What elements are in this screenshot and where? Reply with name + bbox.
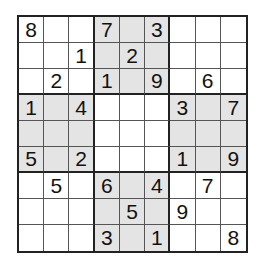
sudoku-cell-r1-c5[interactable] xyxy=(145,43,170,69)
sudoku-cell-r0-c3[interactable]: 7 xyxy=(95,17,120,43)
sudoku-cell-r7-c6[interactable]: 9 xyxy=(170,199,195,225)
sudoku-cell-r5-c8[interactable]: 9 xyxy=(221,147,246,173)
sudoku-cell-r4-c5[interactable] xyxy=(145,121,170,147)
sudoku-cell-r2-c3[interactable]: 1 xyxy=(95,69,120,95)
sudoku-cell-r3-c4[interactable] xyxy=(120,95,145,121)
sudoku-cell-r2-c4[interactable] xyxy=(120,69,145,95)
sudoku-cell-r3-c7[interactable] xyxy=(196,95,221,121)
sudoku-cell-r1-c1[interactable] xyxy=(44,43,69,69)
sudoku-cell-r8-c8[interactable]: 8 xyxy=(221,225,246,251)
sudoku-cell-r2-c5[interactable]: 9 xyxy=(145,69,170,95)
sudoku-cell-r6-c6[interactable] xyxy=(170,173,195,199)
sudoku-cell-r2-c7[interactable]: 6 xyxy=(196,69,221,95)
sudoku-cell-r4-c8[interactable] xyxy=(221,121,246,147)
sudoku-cell-r7-c3[interactable] xyxy=(95,199,120,225)
sudoku-cell-r8-c0[interactable] xyxy=(19,225,44,251)
sudoku-cell-r1-c0[interactable] xyxy=(19,43,44,69)
sudoku-cell-r6-c5[interactable]: 4 xyxy=(145,173,170,199)
sudoku-cell-r2-c0[interactable] xyxy=(19,69,44,95)
sudoku-cell-r8-c3[interactable]: 3 xyxy=(95,225,120,251)
sudoku-cell-r3-c8[interactable]: 7 xyxy=(221,95,246,121)
sudoku-cell-r1-c2[interactable]: 1 xyxy=(69,43,94,69)
sudoku-cell-r6-c1[interactable]: 5 xyxy=(44,173,69,199)
sudoku-cell-r1-c7[interactable] xyxy=(196,43,221,69)
sudoku-cell-r2-c6[interactable] xyxy=(170,69,195,95)
sudoku-cell-r8-c7[interactable] xyxy=(196,225,221,251)
sudoku-cell-r8-c5[interactable]: 1 xyxy=(145,225,170,251)
sudoku-grid: 87312219614375219564759318 xyxy=(17,15,248,253)
sudoku-cell-r7-c1[interactable] xyxy=(44,199,69,225)
sudoku-cell-r6-c0[interactable] xyxy=(19,173,44,199)
sudoku-cell-r2-c2[interactable] xyxy=(69,69,94,95)
sudoku-cell-r8-c6[interactable] xyxy=(170,225,195,251)
sudoku-cell-r5-c4[interactable] xyxy=(120,147,145,173)
sudoku-cell-r0-c2[interactable] xyxy=(69,17,94,43)
sudoku-cell-r4-c6[interactable] xyxy=(170,121,195,147)
sudoku-cell-r4-c3[interactable] xyxy=(95,121,120,147)
sudoku-cell-r3-c6[interactable]: 3 xyxy=(170,95,195,121)
sudoku-cell-r4-c4[interactable] xyxy=(120,121,145,147)
sudoku-cell-r0-c5[interactable]: 3 xyxy=(145,17,170,43)
sudoku-cell-r0-c6[interactable] xyxy=(170,17,195,43)
sudoku-cell-r0-c8[interactable] xyxy=(221,17,246,43)
sudoku-cell-r3-c0[interactable]: 1 xyxy=(19,95,44,121)
sudoku-cell-r4-c1[interactable] xyxy=(44,121,69,147)
sudoku-cell-r0-c7[interactable] xyxy=(196,17,221,43)
sudoku-cell-r3-c3[interactable] xyxy=(95,95,120,121)
sudoku-cell-r6-c8[interactable] xyxy=(221,173,246,199)
sudoku-cell-r5-c1[interactable] xyxy=(44,147,69,173)
sudoku-cell-r5-c3[interactable] xyxy=(95,147,120,173)
sudoku-cell-r7-c2[interactable] xyxy=(69,199,94,225)
sudoku-cell-r1-c3[interactable] xyxy=(95,43,120,69)
sudoku-cell-r6-c3[interactable]: 6 xyxy=(95,173,120,199)
sudoku-cell-r8-c2[interactable] xyxy=(69,225,94,251)
sudoku-cell-r5-c6[interactable]: 1 xyxy=(170,147,195,173)
sudoku-cell-r1-c4[interactable]: 2 xyxy=(120,43,145,69)
sudoku-cell-r8-c1[interactable] xyxy=(44,225,69,251)
sudoku-cell-r5-c7[interactable] xyxy=(196,147,221,173)
sudoku-cell-r4-c0[interactable] xyxy=(19,121,44,147)
sudoku-cell-r4-c7[interactable] xyxy=(196,121,221,147)
sudoku-cell-r0-c1[interactable] xyxy=(44,17,69,43)
sudoku-cell-r7-c4[interactable]: 5 xyxy=(120,199,145,225)
sudoku-cell-r6-c7[interactable]: 7 xyxy=(196,173,221,199)
sudoku-cell-r6-c4[interactable] xyxy=(120,173,145,199)
sudoku-cell-r0-c4[interactable] xyxy=(120,17,145,43)
sudoku-cell-r0-c0[interactable]: 8 xyxy=(19,17,44,43)
sudoku-cell-r7-c7[interactable] xyxy=(196,199,221,225)
sudoku-cell-r4-c2[interactable] xyxy=(69,121,94,147)
sudoku-cell-r2-c8[interactable] xyxy=(221,69,246,95)
sudoku-cell-r3-c2[interactable]: 4 xyxy=(69,95,94,121)
sudoku-cell-r1-c8[interactable] xyxy=(221,43,246,69)
sudoku-cell-r7-c0[interactable] xyxy=(19,199,44,225)
sudoku-cell-r6-c2[interactable] xyxy=(69,173,94,199)
sudoku-cell-r8-c4[interactable] xyxy=(120,225,145,251)
sudoku-cell-r2-c1[interactable]: 2 xyxy=(44,69,69,95)
sudoku-cell-r5-c5[interactable] xyxy=(145,147,170,173)
sudoku-cell-r5-c2[interactable]: 2 xyxy=(69,147,94,173)
sudoku-cell-r5-c0[interactable]: 5 xyxy=(19,147,44,173)
sudoku-cell-r7-c8[interactable] xyxy=(221,199,246,225)
sudoku-cell-r3-c5[interactable] xyxy=(145,95,170,121)
sudoku-cell-r1-c6[interactable] xyxy=(170,43,195,69)
sudoku-cell-r7-c5[interactable] xyxy=(145,199,170,225)
sudoku-cell-r3-c1[interactable] xyxy=(44,95,69,121)
